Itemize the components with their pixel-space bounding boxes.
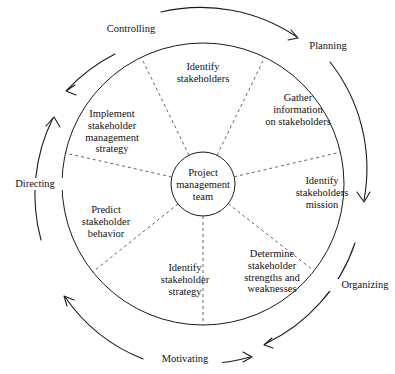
arrow-organizing-head: [357, 192, 370, 202]
arrow-motivating-bottom: [65, 297, 143, 359]
hub-circle: [171, 152, 235, 216]
arrow-motivating-tail-head: [243, 352, 252, 362]
arrow-motivating-head: [264, 338, 273, 348]
arrow-directing-head: [46, 117, 60, 127]
arrow-motivating: [265, 243, 355, 344]
arrow-controlling: [67, 54, 115, 90]
stakeholder-management-wheel-diagram: Project management team Identify stakeho…: [0, 0, 395, 374]
arrow-motivating-tail: [206, 357, 250, 364]
arrow-directing: [35, 118, 53, 240]
wheel-graphic: [0, 0, 395, 374]
arrow-planning: [161, 7, 297, 37]
arrow-organizing: [330, 62, 367, 200]
